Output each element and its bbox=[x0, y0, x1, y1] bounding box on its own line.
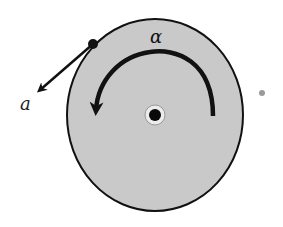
axle-center bbox=[149, 109, 161, 121]
rim-point bbox=[88, 39, 98, 49]
alpha-label: α bbox=[150, 26, 162, 47]
rotating-disk-diagram: α a bbox=[0, 0, 283, 227]
stray-dot bbox=[259, 90, 265, 96]
tangential-acceleration-label: a bbox=[20, 93, 31, 114]
